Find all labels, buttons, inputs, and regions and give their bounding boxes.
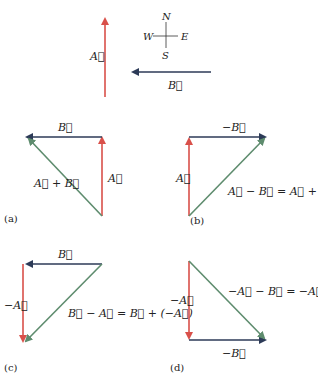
vector-diagram: A⃗ B⃗ N S E W B⃗ A⃗ A⃗ + B⃗ (a) −B⃗ A⃗ A… bbox=[0, 0, 318, 373]
compass-south: S bbox=[162, 50, 169, 61]
vector-B-label: B⃗ bbox=[167, 79, 183, 92]
panel-c-resultant-label: B⃗ − A⃗ = B⃗ + (−A⃗) bbox=[67, 307, 193, 320]
compass-east: E bbox=[180, 31, 189, 42]
panel-d-resultant bbox=[189, 261, 264, 338]
panel-c-resultant bbox=[26, 264, 102, 341]
panel-d-negB-label: −B⃗ bbox=[222, 347, 246, 360]
panel-d-tag: (d) bbox=[170, 362, 184, 373]
compass-north: N bbox=[161, 11, 172, 22]
panel-b-resultant-label: A⃗ − B⃗ = A⃗ + (−B⃗) bbox=[227, 185, 318, 198]
panel-b-resultant bbox=[189, 139, 264, 216]
panel-b: −B⃗ A⃗ A⃗ − B⃗ = A⃗ + (−B⃗) (b) bbox=[175, 121, 318, 226]
panel-b-negB-label: −B⃗ bbox=[222, 121, 246, 134]
panel-d-negA-label: −A⃗ bbox=[170, 294, 194, 307]
panel-a-B-label: B⃗ bbox=[57, 121, 73, 134]
panel-c: B⃗ −A⃗ B⃗ − A⃗ = B⃗ + (−A⃗) (c) bbox=[4, 248, 193, 373]
panel-a-tag: (a) bbox=[4, 213, 18, 224]
panel-a: B⃗ A⃗ A⃗ + B⃗ (a) bbox=[4, 121, 123, 224]
panel-c-B-label: B⃗ bbox=[57, 248, 73, 261]
vector-A-label: A⃗ bbox=[89, 50, 105, 63]
compass-rose: N S E W bbox=[143, 11, 189, 61]
panel-c-negA-label: −A⃗ bbox=[4, 299, 28, 312]
panel-b-A-label: A⃗ bbox=[175, 172, 191, 185]
top-vectors: A⃗ B⃗ N S E W bbox=[89, 11, 211, 97]
panel-b-tag: (b) bbox=[190, 215, 204, 226]
panel-a-resultant-label: A⃗ + B⃗ bbox=[33, 177, 79, 190]
panel-c-tag: (c) bbox=[4, 362, 18, 373]
panel-a-A-label: A⃗ bbox=[107, 172, 123, 185]
panel-d-resultant-label: −A⃗ − B⃗ = −A⃗ + (−B⃗) bbox=[228, 285, 318, 298]
compass-west: W bbox=[143, 31, 154, 42]
